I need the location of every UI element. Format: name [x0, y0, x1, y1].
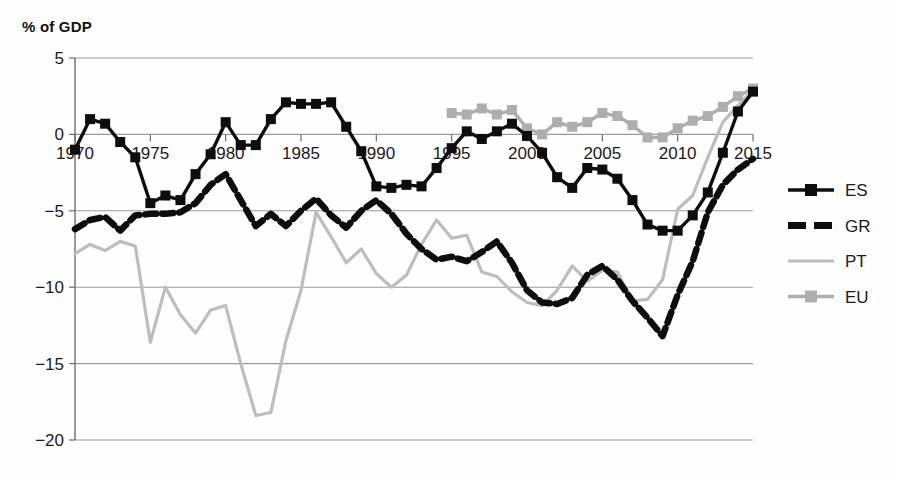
series-marker-es: [597, 165, 607, 175]
legend-label-gr: GR: [845, 217, 871, 236]
series-marker-es: [537, 148, 547, 158]
series-marker-es: [236, 140, 246, 150]
legend-label-eu: EU: [845, 288, 869, 307]
y-tick-label: −5: [45, 202, 64, 221]
series-marker-es: [643, 220, 653, 230]
series-marker-es: [206, 149, 216, 159]
series-marker-eu: [447, 108, 457, 118]
series-marker-es: [718, 148, 728, 158]
series-marker-es: [627, 195, 637, 205]
y-tick-label: −15: [35, 355, 64, 374]
series-marker-es: [417, 181, 427, 191]
series-marker-eu: [477, 103, 487, 113]
series-marker-es: [221, 117, 231, 127]
series-marker-eu: [462, 110, 472, 120]
series-marker-es: [371, 181, 381, 191]
series-marker-eu: [507, 105, 517, 115]
y-tick-label: −20: [35, 431, 64, 450]
series-marker-eu: [673, 123, 683, 133]
series-marker-es: [552, 172, 562, 182]
series-marker-es: [477, 134, 487, 144]
series-marker-eu: [552, 117, 562, 127]
chart-page: % of GDP 50−5−10−15−20197019751980198519…: [0, 0, 897, 477]
series-marker-es: [115, 137, 125, 147]
series-marker-eu: [627, 120, 637, 130]
x-tick-label: 2005: [583, 144, 621, 163]
series-marker-es: [432, 163, 442, 173]
series-marker-es: [386, 183, 396, 193]
series-marker-es: [341, 122, 351, 132]
series-marker-eu: [718, 102, 728, 112]
series-marker-es: [281, 97, 291, 107]
series-marker-eu: [733, 91, 743, 101]
series-marker-es: [688, 210, 698, 220]
series-marker-es: [612, 174, 622, 184]
legend-label-pt: PT: [845, 252, 867, 271]
series-marker-es: [311, 99, 321, 109]
legend-label-es: ES: [845, 181, 868, 200]
chart-canvas: 50−5−10−15−20197019751980198519901995200…: [0, 0, 897, 477]
series-marker-es: [70, 145, 80, 155]
series-marker-eu: [567, 122, 577, 132]
series-marker-eu: [537, 129, 547, 139]
series-marker-es: [85, 114, 95, 124]
series-marker-es: [507, 119, 517, 129]
series-marker-eu: [688, 116, 698, 126]
series-marker-eu: [703, 111, 713, 121]
series-marker-es: [356, 146, 366, 156]
series-marker-es: [251, 140, 261, 150]
series-marker-es: [296, 99, 306, 109]
series-marker-eu: [612, 111, 622, 121]
series-marker-es: [567, 183, 577, 193]
series-marker-es: [582, 163, 592, 173]
series-marker-es: [326, 97, 336, 107]
series-marker-eu: [582, 117, 592, 127]
series-marker-es: [733, 106, 743, 116]
series-marker-es: [703, 187, 713, 197]
series-marker-eu: [492, 110, 502, 120]
y-tick-label: 0: [55, 125, 64, 144]
series-marker-es: [100, 119, 110, 129]
series-marker-es: [673, 226, 683, 236]
legend-marker-es: [805, 184, 817, 196]
series-marker-es: [748, 87, 758, 97]
series-marker-es: [462, 126, 472, 136]
x-tick-label: 2010: [659, 144, 697, 163]
series-marker-eu: [658, 132, 668, 142]
y-tick-label: −10: [35, 278, 64, 297]
series-marker-es: [522, 131, 532, 141]
series-marker-es: [658, 226, 668, 236]
series-line-es: [75, 92, 753, 231]
line-chart: 50−5−10−15−20197019751980198519901995200…: [0, 0, 897, 477]
series-marker-es: [401, 180, 411, 190]
series-marker-es: [191, 169, 201, 179]
legend-marker-eu: [805, 291, 817, 303]
x-tick-label: 1985: [282, 144, 320, 163]
series-marker-es: [266, 114, 276, 124]
series-marker-eu: [643, 132, 653, 142]
series-marker-es: [145, 198, 155, 208]
series-marker-es: [160, 191, 170, 201]
y-tick-label: 5: [55, 49, 64, 68]
series-marker-es: [130, 152, 140, 162]
series-marker-es: [175, 195, 185, 205]
series-marker-eu: [597, 108, 607, 118]
series-marker-es: [492, 126, 502, 136]
series-marker-es: [447, 143, 457, 153]
